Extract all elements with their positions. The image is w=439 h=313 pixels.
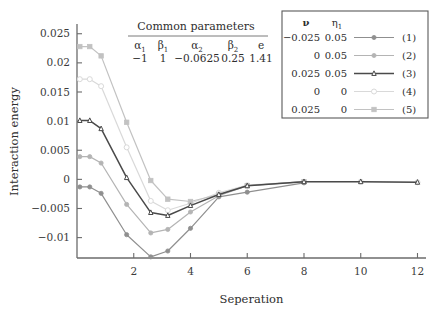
data-point bbox=[166, 227, 170, 231]
y-tick-label: −0.01 bbox=[38, 231, 70, 243]
series-1 bbox=[78, 181, 306, 259]
legend-header-eta-sub: 1 bbox=[338, 23, 342, 31]
data-point bbox=[88, 185, 92, 189]
chart-figure: −0.01−0.00500.0050.010.0150.020.02524681… bbox=[0, 0, 439, 313]
legend: νη1−0.0250.05(1)00.05(2)0.0250.05(3)00(4… bbox=[282, 11, 428, 118]
legend-label: (2) bbox=[402, 50, 416, 61]
x-axis-ticks: 24681012 bbox=[130, 253, 424, 277]
y-tick-label: 0.005 bbox=[40, 144, 70, 156]
y-axis-title-group: Interaction energy bbox=[7, 87, 21, 196]
series-line bbox=[80, 183, 304, 257]
y-tick-label: 0.025 bbox=[40, 27, 70, 39]
y-axis-title: Interaction energy bbox=[7, 87, 21, 196]
legend-eta1: 0 bbox=[341, 86, 347, 97]
legend-label: (4) bbox=[402, 86, 416, 97]
data-point bbox=[88, 44, 92, 48]
y-axis-ticks: −0.01−0.00500.0050.010.0150.020.025 bbox=[31, 27, 82, 243]
common-parameters-table: Common parametersα1β1α2β2e−11−0.06250.25… bbox=[128, 20, 273, 64]
data-point bbox=[166, 213, 170, 218]
x-tick-label: 2 bbox=[130, 265, 137, 277]
y-tick-label: −0.005 bbox=[31, 202, 70, 214]
params-value: 1 bbox=[160, 52, 167, 64]
params-value: 1.41 bbox=[249, 52, 272, 64]
data-point bbox=[124, 145, 129, 150]
y-tick-label: 0.01 bbox=[47, 115, 70, 127]
data-point bbox=[99, 161, 103, 165]
x-tick-label: 4 bbox=[187, 265, 194, 277]
legend-nu: 0 bbox=[314, 86, 320, 97]
y-tick-label: 0.02 bbox=[47, 56, 70, 68]
x-tick-label: 6 bbox=[244, 265, 251, 277]
data-point bbox=[166, 249, 170, 253]
data-point bbox=[87, 77, 92, 82]
legend-label: (1) bbox=[402, 32, 416, 43]
data-point bbox=[149, 231, 153, 235]
data-point bbox=[125, 202, 129, 206]
legend-sample-marker bbox=[372, 35, 376, 39]
series-line bbox=[80, 157, 304, 233]
legend-label: (5) bbox=[402, 104, 416, 115]
x-axis-title: Seperation bbox=[220, 292, 284, 306]
legend-eta1: 0.05 bbox=[325, 32, 347, 43]
data-point bbox=[148, 198, 153, 203]
legend-sample-marker bbox=[372, 107, 376, 111]
series-line bbox=[80, 121, 418, 216]
data-point bbox=[124, 120, 128, 124]
legend-header-nu: ν bbox=[303, 17, 310, 28]
params-header: e bbox=[258, 39, 264, 51]
y-tick-label: 0.015 bbox=[40, 86, 70, 98]
legend-nu: 0 bbox=[314, 50, 320, 61]
legend-eta1: 0.05 bbox=[325, 50, 347, 61]
data-point bbox=[149, 255, 153, 259]
series-3 bbox=[78, 118, 420, 218]
data-point bbox=[99, 84, 104, 89]
series-line bbox=[80, 47, 304, 202]
data-point bbox=[99, 54, 103, 58]
legend-eta1: 0.05 bbox=[325, 68, 347, 79]
series-2 bbox=[78, 155, 306, 236]
params-value: −1 bbox=[132, 52, 147, 64]
data-point bbox=[78, 44, 82, 48]
legend-sample-marker bbox=[372, 89, 377, 94]
data-point bbox=[149, 178, 153, 182]
legend-nu: 0.025 bbox=[291, 68, 320, 79]
chart-canvas: −0.01−0.00500.0050.010.0150.020.02524681… bbox=[0, 0, 439, 313]
data-point bbox=[188, 226, 192, 230]
data-point bbox=[78, 185, 82, 189]
params-table-title: Common parameters bbox=[137, 20, 255, 33]
legend-nu: −0.025 bbox=[283, 32, 320, 43]
data-point bbox=[125, 233, 129, 237]
params-value: −0.0625 bbox=[174, 52, 220, 64]
data-point bbox=[188, 210, 192, 214]
x-tick-label: 10 bbox=[354, 265, 367, 277]
legend-nu: 0.025 bbox=[291, 104, 320, 115]
data-point bbox=[88, 118, 92, 123]
data-point bbox=[88, 155, 92, 159]
legend-label: (3) bbox=[402, 68, 416, 79]
data-point bbox=[245, 190, 249, 194]
y-tick-label: 0 bbox=[63, 173, 70, 185]
x-tick-label: 12 bbox=[411, 265, 424, 277]
data-point bbox=[166, 197, 170, 201]
params-value: 0.25 bbox=[221, 52, 244, 64]
legend-sample-marker bbox=[372, 53, 376, 57]
legend-eta1: 0 bbox=[341, 104, 347, 115]
data-point bbox=[78, 155, 82, 159]
data-point bbox=[77, 77, 82, 82]
x-tick-label: 8 bbox=[301, 265, 308, 277]
data-point bbox=[78, 118, 82, 123]
data-point bbox=[99, 191, 103, 195]
